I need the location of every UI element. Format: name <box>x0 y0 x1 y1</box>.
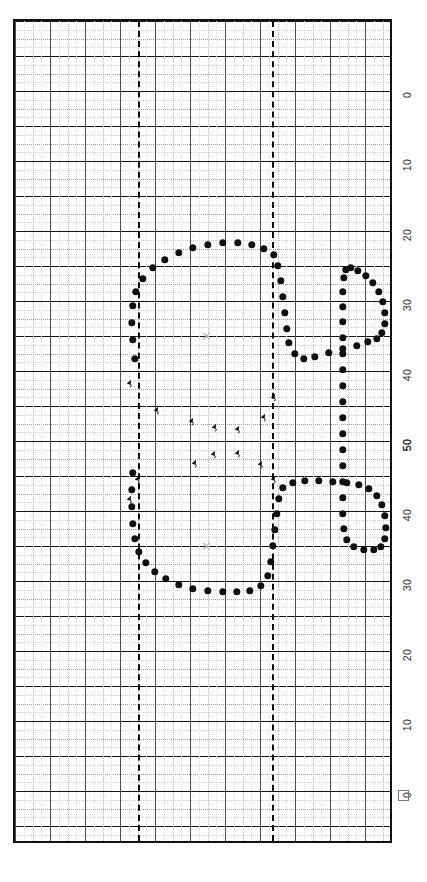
axis-tick-label: 10 <box>401 152 413 178</box>
axis-tick-label: 50 <box>401 432 413 458</box>
data-point <box>248 241 255 248</box>
data-point <box>269 542 276 549</box>
scotoma-arrow-icon <box>210 423 221 434</box>
data-point <box>246 587 253 594</box>
fixation-cross-icon: ✕ <box>200 540 213 553</box>
data-point <box>219 588 226 595</box>
data-point <box>339 414 346 421</box>
data-point <box>142 559 149 566</box>
registration-mark-icon <box>398 790 409 801</box>
data-point <box>283 325 290 332</box>
data-point <box>189 585 196 592</box>
data-point <box>285 339 292 346</box>
data-point <box>277 277 284 284</box>
data-point <box>355 481 362 488</box>
data-point <box>381 309 388 316</box>
data-point <box>189 244 196 251</box>
data-point <box>339 462 346 469</box>
data-point <box>129 302 136 309</box>
scotoma-arrow-icon <box>209 450 220 461</box>
data-point <box>131 535 138 542</box>
data-point <box>175 581 182 588</box>
scotoma-arrow-icon <box>269 475 280 486</box>
data-point <box>353 342 360 349</box>
data-point <box>343 479 350 486</box>
data-point <box>273 510 280 517</box>
data-point <box>339 382 346 389</box>
data-point <box>300 355 307 362</box>
data-point <box>135 548 142 555</box>
data-point <box>139 275 146 282</box>
data-point <box>339 494 346 501</box>
data-point <box>162 575 169 582</box>
scotoma-arrow-icon <box>187 417 198 428</box>
data-point <box>260 245 267 252</box>
data-point <box>382 524 389 531</box>
data-point <box>279 484 286 491</box>
data-layer: ✕✕ <box>15 21 390 841</box>
data-point <box>381 535 388 542</box>
data-point <box>373 335 380 342</box>
scotoma-arrow-icon <box>233 425 244 436</box>
data-point <box>132 288 139 295</box>
scotoma-arrow-icon <box>133 475 144 486</box>
scotoma-arrow-icon <box>233 449 244 460</box>
data-point <box>362 272 369 279</box>
data-point <box>339 318 346 325</box>
data-point <box>381 320 388 327</box>
data-point <box>381 512 388 519</box>
data-point <box>379 298 386 305</box>
data-point <box>219 239 226 246</box>
data-point <box>264 572 271 579</box>
scotoma-arrow-icon <box>256 460 267 471</box>
data-point <box>129 520 136 527</box>
data-point <box>129 336 136 343</box>
data-point <box>204 587 211 594</box>
data-point <box>279 293 286 300</box>
data-point <box>360 546 367 553</box>
axis-tick-label: 30 <box>401 292 413 318</box>
data-point <box>339 446 346 453</box>
data-point <box>233 588 240 595</box>
data-point <box>369 279 376 286</box>
scotoma-arrow-icon <box>259 413 270 424</box>
data-point <box>234 239 241 246</box>
data-point <box>275 495 282 502</box>
scotoma-arrow-icon <box>152 406 163 417</box>
data-point <box>342 266 349 273</box>
data-point <box>378 501 385 508</box>
fixation-cross-icon: ✕ <box>200 330 213 343</box>
data-point <box>339 510 346 517</box>
data-point <box>364 338 371 345</box>
data-point <box>329 478 336 485</box>
data-point <box>340 274 347 281</box>
data-point <box>204 241 211 248</box>
data-point <box>311 353 318 360</box>
data-point <box>375 288 382 295</box>
data-point <box>128 486 135 493</box>
axis-tick-label: 40 <box>401 502 413 528</box>
chart-figure: ✕✕ 0102030405050403020100 <box>0 0 427 882</box>
data-point <box>267 558 274 565</box>
data-point <box>325 349 332 356</box>
data-point <box>149 264 156 271</box>
axis-tick-label: 20 <box>401 642 413 668</box>
plot-area: ✕✕ <box>13 19 392 843</box>
data-point <box>339 398 346 405</box>
scotoma-arrow-icon <box>269 393 280 404</box>
data-point <box>339 350 346 357</box>
data-point <box>291 350 298 357</box>
scotoma-arrow-icon <box>190 459 201 470</box>
axis-tick-label: 10 <box>401 712 413 738</box>
data-point <box>339 288 346 295</box>
scotoma-arrow-icon <box>125 495 136 506</box>
data-point <box>270 251 277 258</box>
data-point <box>301 477 308 484</box>
scotoma-arrow-icon <box>125 379 136 390</box>
data-point <box>281 309 288 316</box>
data-point <box>354 267 361 274</box>
data-point <box>340 525 347 532</box>
data-point <box>131 355 138 362</box>
data-point <box>339 334 346 341</box>
data-point <box>271 526 278 533</box>
